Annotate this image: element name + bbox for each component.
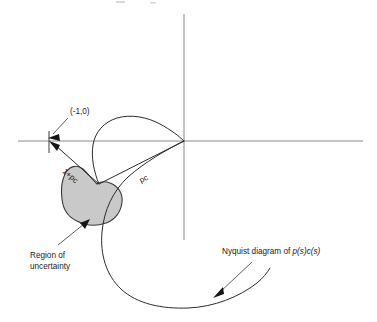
- critical-point-arrowhead: [48, 134, 60, 141]
- diagram-canvas: (-1,0) 1+pc pc Region of uncertainty Nyq…: [0, 0, 377, 322]
- nyquist-upper-lobe: [92, 116, 184, 184]
- nyquist-lower-sweep: [102, 141, 270, 308]
- region-annotation: Region of uncertainty: [30, 219, 90, 271]
- critical-point-label: (-1,0): [70, 107, 90, 116]
- vector-one-plus-pc-arrowhead: [49, 141, 60, 151]
- nyquist-caption: Nyquist diagram of p(s)c(s): [222, 247, 321, 256]
- nyquist-caption-leader: [220, 262, 252, 292]
- nyquist-caption-arrowhead: [213, 287, 224, 298]
- nyquist-caption-math: p(s)c(s): [292, 247, 321, 256]
- region-label-line1: Region of: [30, 251, 66, 260]
- critical-point-annotation: (-1,0): [48, 107, 90, 141]
- region-leader-line: [58, 224, 84, 245]
- scan-artifact: [116, 1, 125, 3]
- region-label-line2: uncertainty: [30, 262, 71, 271]
- scan-artifact: [150, 2, 156, 4]
- vector-pc-label: pc: [138, 173, 150, 185]
- critical-point-leader: [53, 118, 68, 134]
- nyquist-figure: (-1,0) 1+pc pc Region of uncertainty Nyq…: [0, 0, 377, 322]
- nyquist-caption-plain: Nyquist diagram of: [222, 247, 293, 256]
